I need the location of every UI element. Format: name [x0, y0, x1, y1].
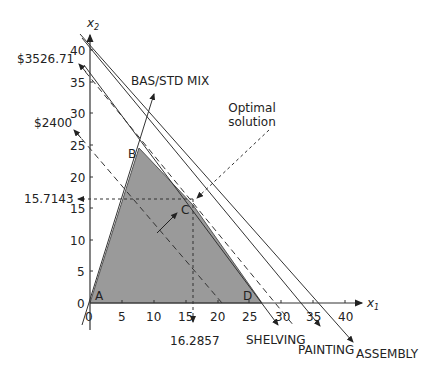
y-tick-0: 0 — [77, 297, 85, 311]
lp-graph: 0 5 10 15 20 25 30 35 40 0 5 10 15 20 25… — [0, 0, 427, 380]
painting-label: PAINTING — [298, 343, 354, 357]
point-a-label: A — [95, 289, 104, 303]
x-tick-20: 20 — [210, 310, 225, 324]
y-tick-10: 10 — [70, 234, 85, 248]
x-tick-10: 10 — [146, 310, 161, 324]
x-tick-25: 25 — [242, 310, 257, 324]
feasible-region — [90, 148, 262, 303]
y-axis-label: x2 — [86, 16, 99, 32]
x-tick-40: 40 — [338, 310, 353, 324]
bas-std-mix-label: BAS/STD MIX — [131, 74, 209, 88]
y-tick-30: 30 — [70, 107, 85, 121]
y-tick-5: 5 — [77, 265, 85, 279]
x-axis-label: x1 — [366, 296, 379, 312]
optimal-pointer — [197, 130, 269, 198]
c-x1-value: 16.2857 — [170, 334, 220, 348]
x-tick-30: 30 — [275, 310, 290, 324]
point-d-label: D — [243, 289, 252, 303]
y-tick-35: 35 — [70, 76, 85, 90]
x-tick-0: 0 — [85, 310, 93, 324]
y-tick-25: 25 — [70, 139, 85, 153]
point-b-label: B — [128, 147, 136, 161]
optimal-label-line2: solution — [228, 115, 276, 129]
x-tick-15: 15 — [178, 310, 193, 324]
x-tick-35: 35 — [306, 310, 321, 324]
y-tick-20: 20 — [70, 171, 85, 185]
shelving-label: SHELVING — [246, 333, 306, 347]
x-tick-5: 5 — [118, 310, 126, 324]
point-c-label: C — [181, 203, 189, 217]
profit-low-label: $2400 — [34, 116, 72, 130]
assembly-label: ASSEMBLY — [356, 347, 419, 361]
c-x2-value: 15.7143 — [24, 192, 74, 206]
optimal-label-line1: Optimal — [228, 101, 275, 115]
profit-high-label: $3526.71 — [17, 52, 74, 66]
